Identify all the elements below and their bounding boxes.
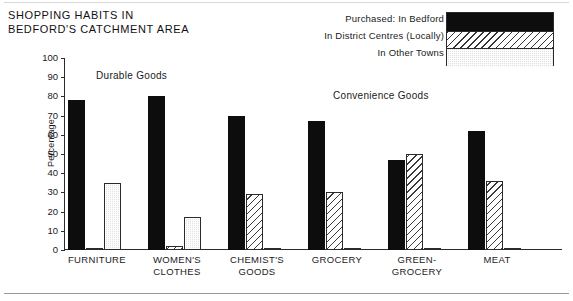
x-axis-category-label: FURNITURE <box>55 254 139 266</box>
y-tick-label-20: 20 <box>47 207 58 217</box>
y-tick-label-90: 90 <box>47 72 58 82</box>
legend-entry-in-district-centres: In District Centres (Locally) <box>324 30 444 41</box>
bar <box>68 100 85 250</box>
bar <box>104 183 121 250</box>
bar <box>166 246 183 250</box>
y-tick-label-70: 70 <box>47 111 58 121</box>
bar <box>184 217 201 250</box>
bar <box>228 116 245 250</box>
legend-swatch-in-district-centres <box>447 31 553 49</box>
bottom-divider <box>4 293 569 294</box>
bar-groups <box>65 58 562 250</box>
x-axis-category-label: MEAT <box>455 254 539 266</box>
bar-group <box>226 58 288 250</box>
bar <box>246 194 263 250</box>
x-axis-category-label: WOMEN'S CLOTHES <box>135 254 219 277</box>
bar <box>264 248 281 251</box>
legend-swatch-in-bedford <box>447 13 553 31</box>
bar-group <box>306 58 368 250</box>
legend-entry-in-bedford: Purchased: In Bedford <box>345 13 444 24</box>
plot-area: Percentage 0102030405060708090100 Durabl… <box>20 50 565 260</box>
y-tick-label-40: 40 <box>47 168 58 178</box>
y-tick-label-100: 100 <box>42 53 58 63</box>
y-tick-label-80: 80 <box>47 92 58 102</box>
x-axis-category-label: CHEMIST'S GOODS <box>215 254 299 277</box>
x-axis-category-label: GREEN- GROCERY <box>375 254 459 277</box>
y-tick-0 <box>61 250 65 251</box>
bar <box>388 160 405 250</box>
figure-canvas: SHOPPING HABITS IN BEDFORD'S CATCHMENT A… <box>0 0 573 301</box>
y-tick-label-30: 30 <box>47 188 58 198</box>
bar <box>424 248 441 251</box>
bar <box>326 192 343 250</box>
bar-group <box>466 58 528 250</box>
bar <box>406 154 423 250</box>
bar <box>148 96 165 250</box>
bar <box>86 248 103 251</box>
bar <box>308 121 325 250</box>
x-axis-labels: FURNITUREWOMEN'S CLOTHESCHEMIST'S GOODSG… <box>65 254 562 288</box>
y-tick-label-50: 50 <box>47 149 58 159</box>
bar-group <box>146 58 208 250</box>
bar <box>486 181 503 250</box>
bar-group <box>66 58 128 250</box>
x-axis-category-label: GROCERY <box>295 254 379 266</box>
y-tick-label-60: 60 <box>47 130 58 140</box>
page-title: SHOPPING HABITS IN BEDFORD'S CATCHMENT A… <box>8 9 189 36</box>
bar <box>344 248 361 251</box>
y-tick-label-10: 10 <box>47 226 58 236</box>
top-divider <box>4 2 569 3</box>
bar-group <box>386 58 448 250</box>
bar <box>504 248 521 251</box>
bar <box>468 131 485 250</box>
